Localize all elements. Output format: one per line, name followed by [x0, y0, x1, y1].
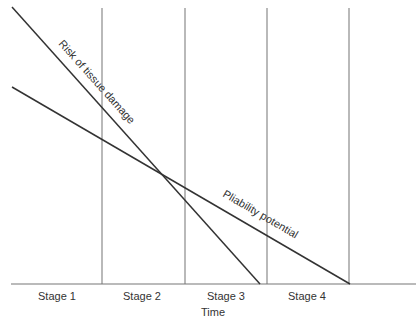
stage-label-2: Stage 2: [123, 290, 161, 302]
time-axis-label: Time: [201, 306, 225, 318]
stage-label-1: Stage 1: [38, 290, 76, 302]
stage-label-3: Stage 3: [207, 290, 245, 302]
stage-label-4: Stage 4: [288, 290, 326, 302]
stage-diagram: Risk of tissue damage Pliability potenti…: [0, 0, 420, 322]
risk-of-tissue-damage-label: Risk of tissue damage: [57, 37, 138, 126]
risk-of-tissue-damage-line: [12, 7, 260, 284]
pliability-potential-line: [12, 87, 350, 284]
